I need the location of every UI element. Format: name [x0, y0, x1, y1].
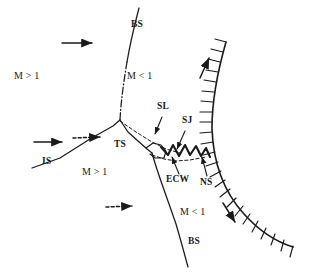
label-is: IS — [42, 156, 51, 166]
label-mach-upper-right: M < 1 — [127, 70, 153, 81]
label-ts: TS — [114, 139, 126, 149]
bow-shock-upper-solid — [127, 8, 139, 62]
wall-arrow-upper — [200, 58, 209, 78]
label-sl: SL — [157, 101, 169, 111]
wall-arrow-lower — [223, 203, 235, 222]
label-mach-lower-left: M > 1 — [82, 166, 108, 177]
ecw-leader-arrow — [172, 157, 179, 174]
label-sj: SJ — [182, 115, 192, 125]
bow-shock-upper-dashdot — [120, 62, 127, 120]
label-ecw: ECW — [166, 174, 189, 184]
flow-arrow-post-is — [73, 137, 100, 138]
sl-leader-arrow — [155, 117, 162, 134]
label-ns: NS — [200, 177, 213, 187]
flow-arrow-lower — [106, 206, 132, 207]
label-bs-bottom: BS — [188, 236, 200, 246]
shock-interaction-diagram — [0, 0, 310, 275]
curved-wall — [212, 42, 293, 247]
label-mach-upper-left: M > 1 — [14, 70, 40, 81]
label-bs-top: BS — [131, 19, 143, 29]
label-mach-lower-right: M < 1 — [180, 206, 206, 217]
